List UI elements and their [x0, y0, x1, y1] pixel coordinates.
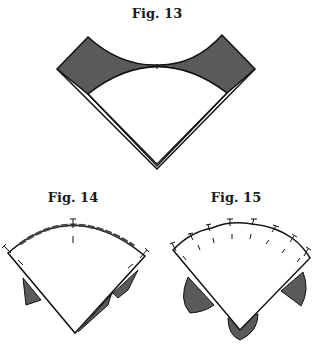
fig15-diagram [170, 219, 311, 340]
fig14-diagram [2, 219, 149, 333]
diagram-canvas [0, 0, 314, 345]
fig13-white-wedge [88, 67, 227, 166]
fig13-diagram [57, 35, 255, 169]
fig15-wedge [173, 223, 310, 330]
fig14-left-pin [4, 246, 11, 253]
